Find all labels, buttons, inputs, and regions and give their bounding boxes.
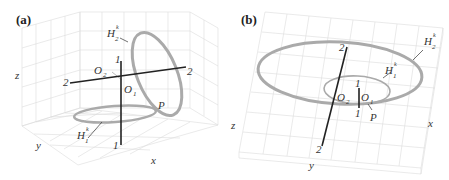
- panel-b: (b) H k 2 H k 1 2 2 1 1 O 2 O 1 P z y x: [225, 0, 449, 180]
- label-h1k: H: [385, 65, 393, 76]
- axis-label-y: y: [309, 160, 314, 171]
- label-axis2-top: 2: [339, 42, 345, 53]
- label-o2: O: [94, 65, 102, 76]
- axis-label-x: x: [428, 118, 433, 129]
- label-p: P: [370, 112, 377, 123]
- axis-2-line: [70, 67, 186, 83]
- label-axis2-right: 2: [187, 66, 193, 77]
- panel-label-b: (b): [241, 12, 257, 28]
- label-o1: O: [124, 84, 132, 95]
- label-axis1-top: 1: [115, 54, 121, 65]
- axis-label-z: z: [231, 120, 235, 131]
- label-axis1-bottom: 1: [355, 108, 361, 119]
- label-axis2-bottom: 2: [316, 144, 322, 155]
- panel-label-a: (a): [16, 12, 31, 28]
- grid-lines: [22, 12, 218, 165]
- label-h2k: H: [424, 36, 432, 47]
- label-o2: O: [337, 92, 345, 103]
- label-axis1-bottom: 1: [113, 140, 119, 151]
- axis-label-z: z: [15, 70, 19, 81]
- label-p: P: [158, 100, 165, 111]
- label-h1k: H: [77, 130, 85, 141]
- label-h2k: H: [107, 28, 115, 39]
- axis-label-x: x: [151, 155, 156, 166]
- label-o1: O: [361, 92, 369, 103]
- label-axis1-top: 1: [355, 78, 361, 89]
- label-axis2-left: 2: [63, 77, 69, 88]
- axis-label-y: y: [36, 140, 41, 151]
- panel-a: (a) H k 2 1 1 2 2 O 2 O 1 P H k 1 z y x: [0, 0, 224, 180]
- panel-b-plot: [225, 0, 449, 180]
